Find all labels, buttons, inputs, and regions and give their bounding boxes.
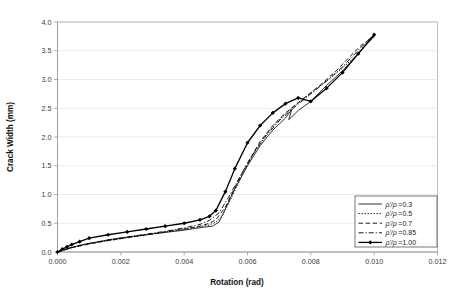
y-tick-label: 4.0	[42, 18, 52, 27]
chart-canvas: 0.0000.0020.0040.0060.0080.0100.012 0.00…	[0, 0, 450, 296]
y-axis-title: Crack Width (mm)	[6, 102, 15, 172]
x-tick-label: 0.012	[429, 257, 447, 266]
legend[interactable]: ρ'/ρ=0.3ρ'/ρ=0.5ρ'/ρ=0.7ρ'/ρ=0.85ρ'/ρ=1.…	[355, 196, 437, 247]
legend-item-label[interactable]: ρ'/ρ=0.3	[385, 201, 413, 209]
legend-item-label[interactable]: ρ'/ρ=1.00	[385, 239, 417, 247]
y-tick-label: 2.0	[42, 133, 52, 142]
y-tick-label: 3.0	[42, 75, 52, 84]
legend-item-label[interactable]: ρ'/ρ=0.85	[385, 229, 417, 237]
y-tick-label: 3.5	[42, 46, 52, 55]
y-tick-label: 2.5	[42, 104, 52, 113]
legend-item-label[interactable]: ρ'/ρ=0.7	[385, 220, 413, 228]
x-tick-label: 0.000	[49, 257, 67, 266]
x-axis-title: Rotation (rad)	[210, 278, 264, 287]
y-tick-label: 0.0	[42, 248, 52, 257]
crack-width-rotation-chart: 0.0000.0020.0040.0060.0080.0100.012 0.00…	[0, 0, 450, 296]
x-tick-label: 0.006	[239, 257, 257, 266]
y-tick-label: 0.5	[42, 219, 52, 228]
x-tick-label: 0.004	[175, 257, 193, 266]
y-tick-label: 1.5	[42, 161, 52, 170]
x-tick-label: 0.010	[365, 257, 383, 266]
x-tick-label: 0.008	[302, 257, 320, 266]
legend-item-label[interactable]: ρ'/ρ=0.5	[385, 210, 413, 218]
x-tick-label: 0.002	[112, 257, 130, 266]
y-tick-label: 1.0	[42, 190, 52, 199]
